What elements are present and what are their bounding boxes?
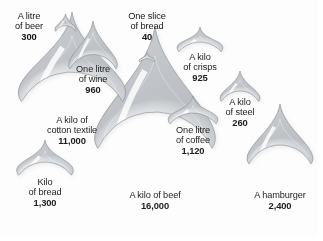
right-edge-fade — [316, 0, 323, 241]
water-footprint-infographic: A litreof beer300One sliceof bread40One … — [0, 0, 323, 241]
droplet-illustration-canvas — [0, 0, 323, 241]
bottom-edge-fade — [0, 233, 323, 241]
